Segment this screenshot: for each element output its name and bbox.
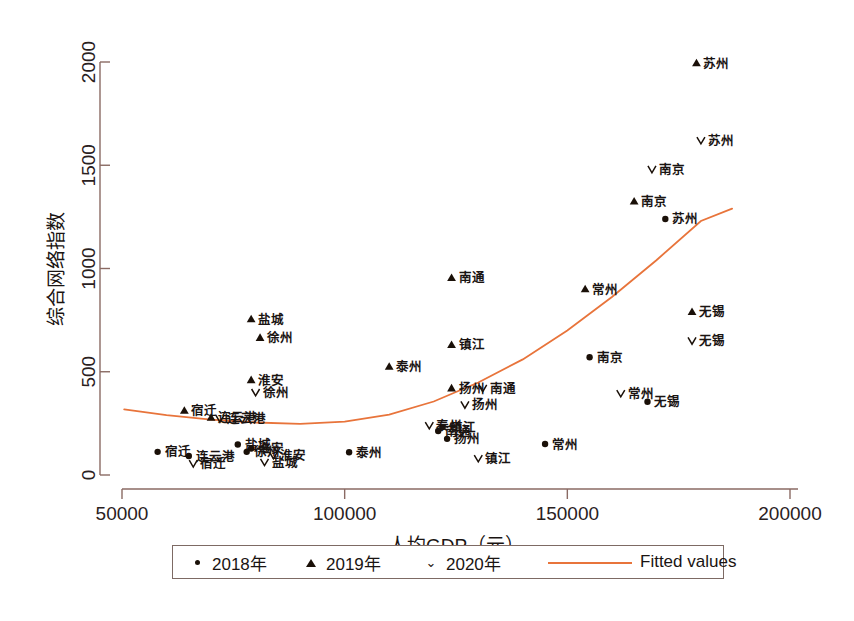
vee-marker-icon: ⌄ [421,553,441,571]
point-label: 无锡 [698,333,725,348]
point-label: 常州 [592,282,618,297]
point-label: 扬州 [472,397,498,412]
marker-triangle [385,362,394,370]
point-label: 泰州 [435,418,462,433]
marker-vee [648,166,656,173]
legend-item-2018年[interactable]: 2018年 [187,550,267,575]
y-axis-title: 综合网络指数 [46,212,67,326]
legend-item-Fitted values[interactable]: Fitted values [545,552,736,572]
point-label: 南通 [459,270,485,285]
y-tick-label: 1500 [78,144,99,186]
point-label: 南京 [641,194,667,209]
marker-vee [688,337,696,344]
fitted-line-icon [545,553,635,571]
point-label: 无锡 [653,394,680,409]
marker-triangle [688,307,697,315]
marker-triangle [447,341,456,349]
marker-vee [425,422,433,429]
point-label: 南京 [597,350,623,365]
legend-label: 2018年 [212,550,267,575]
series-2019年: 苏州南京常州无锡南通盐城徐州镇江泰州淮安扬州宿迁连云港 [180,56,730,426]
point-label: 镇江 [459,337,485,352]
point-label: 常州 [552,437,578,452]
series-2020年: 苏州南京无锡常州南通扬州徐州连云港泰州镇江淮安盐城宿迁 [189,133,734,471]
legend-label: 2020年 [446,550,501,575]
marker-triangle [256,333,265,341]
point-label: 宿迁 [200,456,226,471]
legend-label: 2019年 [326,550,381,575]
point-label: 苏州 [708,133,734,148]
point-label: 宿迁 [191,403,217,418]
x-tick-label: 50000 [96,503,149,524]
marker-triangle [447,273,456,281]
marker-triangle [247,376,256,384]
marker-triangle [581,285,590,293]
marker-circle [186,453,192,459]
y-tick-label: 500 [78,356,99,388]
scatter-chart: 050010001500200050000100000150000200000人… [0,0,854,621]
point-label: 连云港 [227,411,266,426]
point-label: 泰州 [355,445,382,460]
marker-triangle [180,406,189,414]
point-label: 常州 [628,386,654,401]
marker-triangle [630,197,639,205]
x-tick-label: 100000 [313,503,376,524]
marker-vee [697,137,705,144]
marker-vee [252,389,260,396]
legend-label: Fitted values [640,552,736,572]
point-label: 徐州 [266,330,293,345]
circle-marker-icon [187,553,207,571]
marker-circle [346,449,352,455]
marker-triangle [247,315,256,323]
point-label: 苏州 [672,211,698,226]
marker-circle [235,441,241,447]
marker-circle [444,436,450,442]
point-label: 泰州 [395,359,422,374]
marker-vee [189,460,197,467]
plot-area: 050010001500200050000100000150000200000人… [0,0,854,621]
marker-circle [154,449,160,455]
triangle-marker-icon [301,553,321,571]
marker-vee [617,390,625,397]
marker-vee [474,455,482,462]
marker-vee [461,401,469,408]
marker-vee [261,459,269,466]
x-tick-label: 200000 [758,503,821,524]
marker-triangle [692,59,701,67]
legend-item-2020年[interactable]: ⌄2020年 [421,550,501,575]
y-tick-label: 0 [78,470,99,481]
marker-circle [243,449,249,455]
legend-item-2019年[interactable]: 2019年 [301,550,381,575]
point-label: 镇江 [485,451,511,466]
marker-circle [662,216,668,222]
marker-circle [586,354,592,360]
point-label: 无锡 [698,304,725,319]
marker-triangle [447,384,456,392]
point-label: 南通 [490,381,516,396]
point-label: 盐城 [258,312,284,327]
point-label: 盐城 [272,455,298,470]
point-label: 扬州 [454,431,480,446]
point-label: 南京 [659,162,685,177]
x-tick-label: 150000 [536,503,599,524]
y-tick-label: 2000 [78,41,99,83]
chart-legend: 2018年2019年⌄2020年Fitted values [172,545,724,579]
marker-circle [542,441,548,447]
point-label: 徐州 [262,385,289,400]
y-tick-label: 1000 [78,247,99,289]
point-label: 苏州 [703,56,729,71]
